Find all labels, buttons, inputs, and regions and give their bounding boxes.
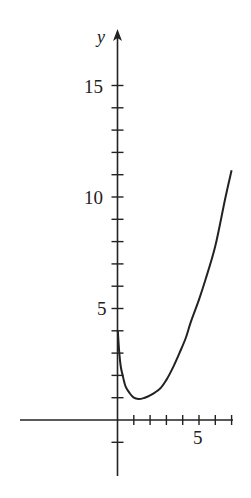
curve-series	[118, 170, 232, 399]
y-tick-label-15: 15	[84, 77, 103, 96]
y-tick-label-5: 5	[97, 299, 107, 318]
axes	[20, 36, 233, 476]
x-tick-label-5: 5	[193, 428, 203, 447]
y-tick-label-10: 10	[84, 188, 103, 207]
function-plot	[0, 0, 251, 498]
y-axis-label: y	[97, 28, 105, 46]
